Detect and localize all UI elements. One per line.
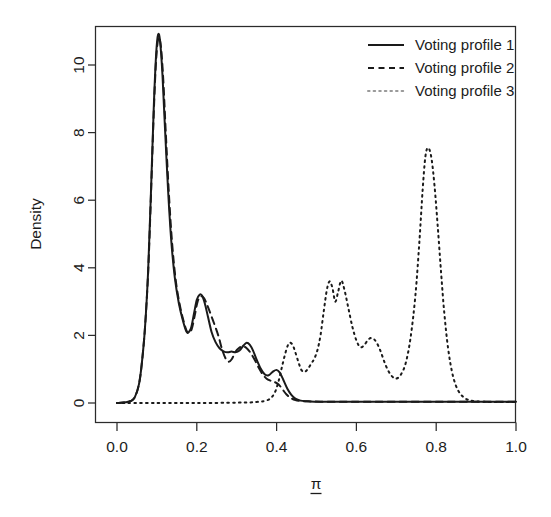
y-axis-ticks — [88, 65, 96, 403]
legend-label-voting-profile-1: Voting profile 1 — [415, 36, 514, 53]
x-tick-label-0.2: 0.2 — [186, 438, 208, 455]
x-tick-label-1.0: 1.0 — [505, 438, 527, 455]
y-tick-label-8: 8 — [70, 128, 87, 137]
y-tick-label-2: 2 — [70, 331, 87, 340]
y-tick-label-0: 0 — [70, 398, 87, 407]
x-axis-title-group: π — [311, 475, 322, 494]
x-tick-label-0.0: 0.0 — [106, 438, 128, 455]
x-axis-tick-labels: 0.0 0.2 0.4 0.6 0.8 1.0 — [106, 438, 527, 455]
y-axis-tick-labels: 0 2 4 6 8 10 — [70, 56, 87, 407]
legend-label-voting-profile-3: Voting profile 3 — [415, 82, 514, 99]
x-tick-label-0.6: 0.6 — [346, 438, 368, 455]
x-axis-title: π — [311, 475, 322, 492]
y-axis-title: Density — [27, 198, 44, 250]
y-tick-label-10: 10 — [70, 56, 87, 74]
x-tick-label-0.4: 0.4 — [266, 438, 288, 455]
y-tick-label-6: 6 — [70, 196, 87, 205]
x-axis-ticks — [117, 423, 516, 432]
y-tick-label-4: 4 — [70, 263, 87, 272]
legend: Voting profile 1 Voting profile 2 Voting… — [368, 36, 514, 99]
density-plot-figure: 0 2 4 6 8 10 Density 0.0 0.2 0.4 0.6 0.8… — [0, 0, 551, 517]
series-line-voting-profile-3 — [117, 148, 516, 403]
legend-label-voting-profile-2: Voting profile 2 — [415, 59, 514, 76]
x-tick-label-0.8: 0.8 — [425, 438, 447, 455]
plot-canvas: 0 2 4 6 8 10 Density 0.0 0.2 0.4 0.6 0.8… — [0, 0, 551, 517]
